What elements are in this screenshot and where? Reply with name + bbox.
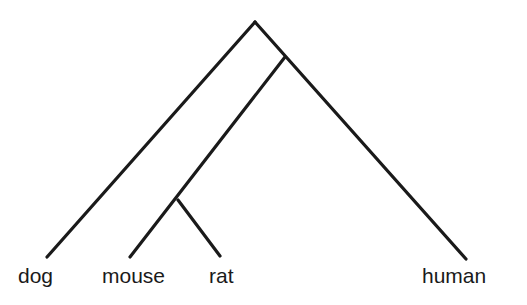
branch-inner2-to-rat bbox=[178, 200, 220, 256]
phylogenetic-tree: dog mouse rat human bbox=[0, 0, 527, 305]
branch-inner1-to-mouse bbox=[130, 57, 285, 257]
leaf-label-rat: rat bbox=[209, 264, 234, 287]
leaf-label-dog: dog bbox=[18, 264, 53, 287]
branch-root-to-human bbox=[255, 22, 466, 259]
leaf-label-mouse: mouse bbox=[102, 264, 165, 287]
leaf-label-human: human bbox=[422, 264, 486, 287]
branch-root-to-dog bbox=[47, 22, 255, 257]
